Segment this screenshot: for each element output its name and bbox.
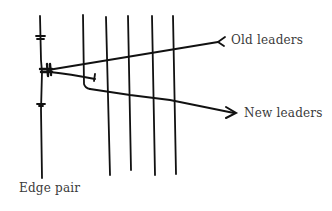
vertical-line-2 [106,17,110,175]
old-leaders-line [48,42,218,70]
new-leaders-line [90,89,234,113]
edge-pair-line [40,16,42,178]
vertical-line-5 [173,16,176,174]
old-leaders-label: Old leaders [231,33,303,47]
stub-leader-tbar [94,74,95,81]
diagram-canvas: Old leaders New leaders Edge pair [0,0,332,211]
vertical-line-4 [152,16,155,175]
vertical-line-3 [128,16,131,170]
old-leaders-tail-icon [218,37,225,46]
edge-pair-label: Edge pair [19,181,80,195]
new-leaders-label: New leaders [244,106,323,120]
stub-leader-line [50,72,95,79]
